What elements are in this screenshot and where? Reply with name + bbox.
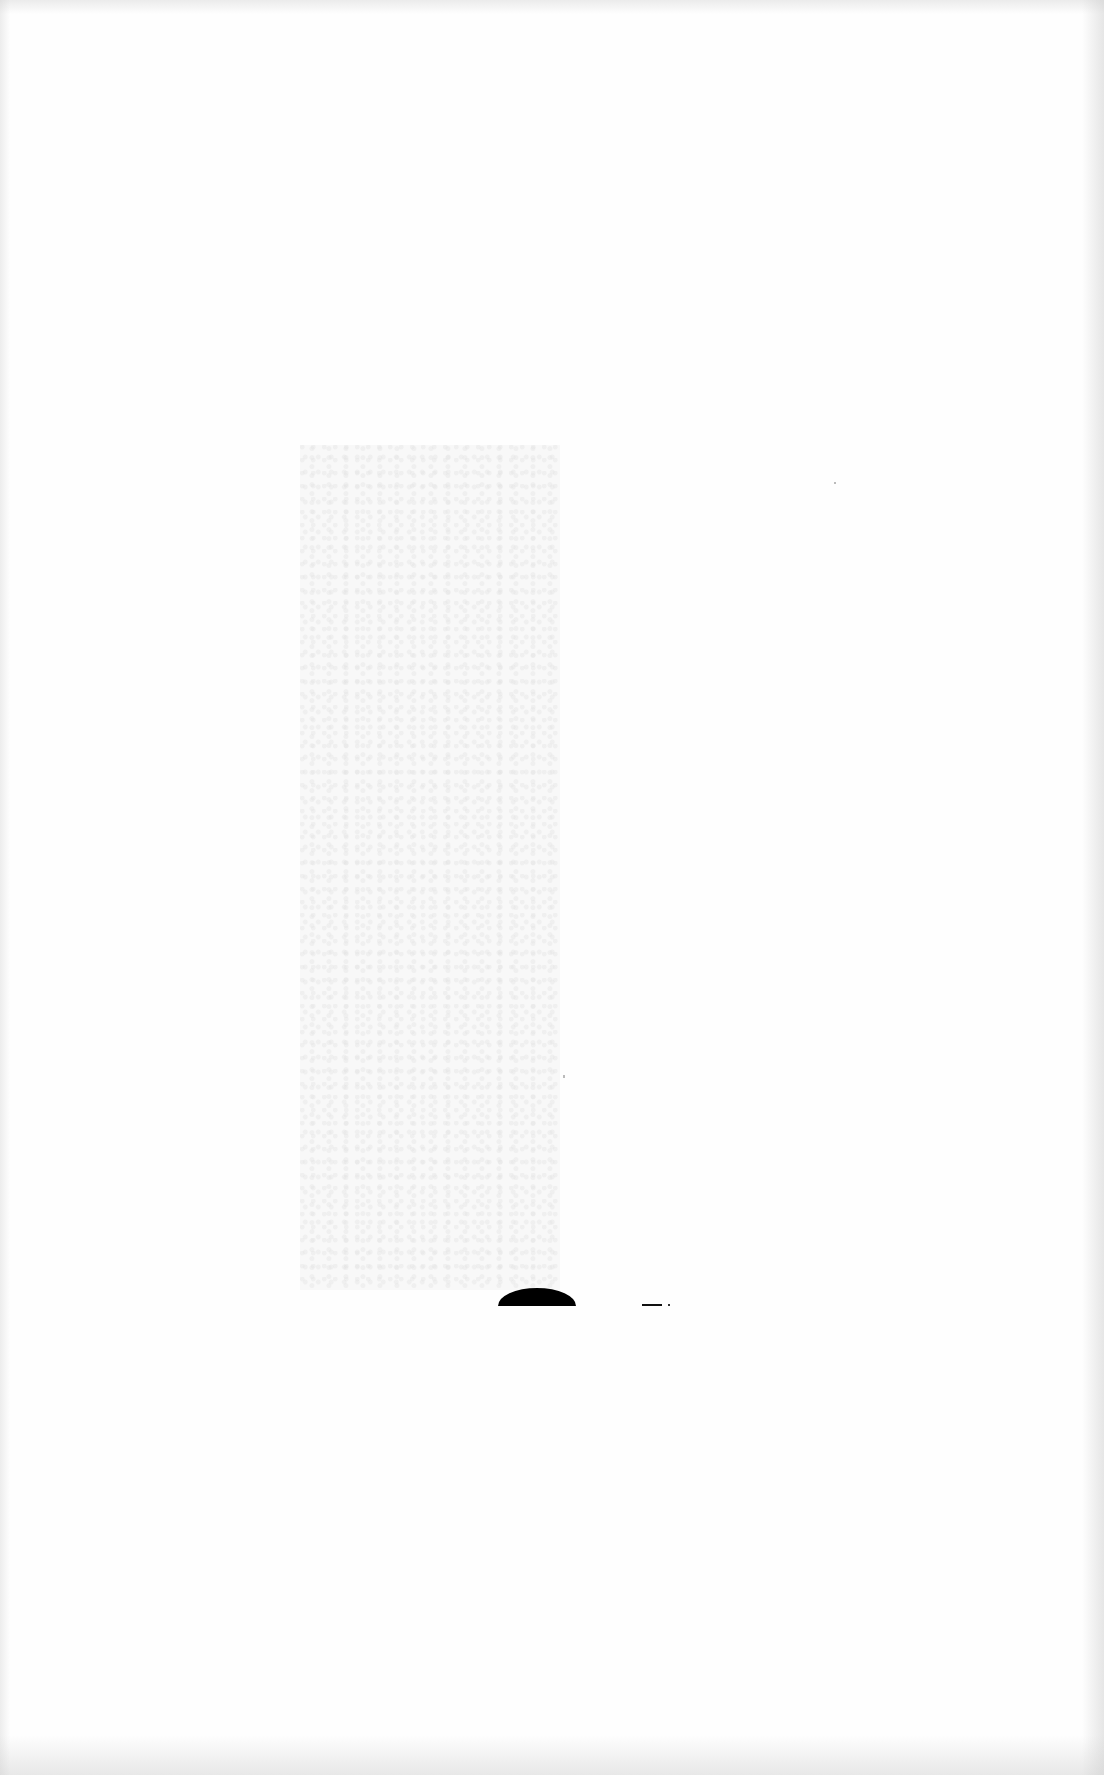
- dust-speck: [834, 482, 836, 484]
- scan-edge-right: [1082, 0, 1104, 1775]
- scanned-page: [0, 0, 1104, 1775]
- ink-mark-dome: [498, 1288, 576, 1306]
- ink-mark-dash: [642, 1304, 662, 1306]
- scan-edge-top: [0, 0, 1104, 14]
- ink-mark-dot: [668, 1304, 670, 1306]
- faint-grey-region: [300, 445, 560, 1290]
- scan-edge-bottom: [0, 1735, 1104, 1775]
- dust-speck: [563, 1075, 565, 1078]
- scan-edge-left: [0, 0, 10, 1775]
